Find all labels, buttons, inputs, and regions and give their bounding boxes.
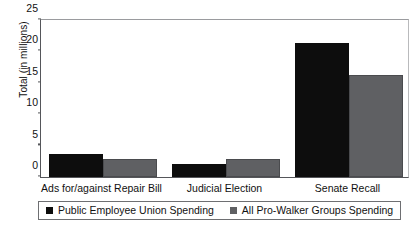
legend-item[interactable]: All Pro-Walker Groups Spending: [230, 204, 393, 216]
bar-group: [172, 20, 280, 177]
x-axis-label: Senate Recall: [315, 182, 380, 194]
legend-swatch-icon: [230, 207, 237, 214]
y-tick-label: 5: [32, 128, 38, 140]
y-tick-mark: [38, 81, 42, 82]
y-tick-label: 15: [26, 65, 38, 77]
legend: Public Employee Union SpendingAll Pro-Wa…: [38, 201, 401, 220]
y-tick-mark: [38, 112, 42, 113]
y-tick-mark: [38, 175, 42, 176]
y-tick-mark: [38, 18, 42, 19]
x-axis-label: Judicial Election: [187, 182, 262, 194]
bar-chart: Total (in millions) 0510152025 Ads for/a…: [0, 0, 414, 237]
legend-swatch-icon: [46, 207, 53, 214]
y-tick-label: 0: [32, 159, 38, 171]
bar: [295, 43, 349, 177]
legend-label: All Pro-Walker Groups Spending: [242, 204, 393, 216]
bar: [49, 154, 103, 177]
y-tick-mark: [38, 50, 42, 51]
x-axis-label: Ads for/against Repair Bill: [41, 182, 162, 194]
y-tick-label: 20: [26, 33, 38, 45]
bar-group: [295, 20, 403, 177]
legend-item[interactable]: Public Employee Union Spending: [46, 204, 214, 216]
legend-label: Public Employee Union Spending: [58, 204, 214, 216]
y-tick-mark: [38, 144, 42, 145]
bar: [172, 164, 226, 177]
bar: [103, 159, 157, 177]
bar: [226, 159, 280, 177]
bar-group: [49, 20, 157, 177]
plot-area: 0510152025: [40, 19, 409, 178]
bar: [349, 75, 403, 177]
y-tick-label: 25: [26, 2, 38, 14]
y-tick-label: 10: [26, 96, 38, 108]
